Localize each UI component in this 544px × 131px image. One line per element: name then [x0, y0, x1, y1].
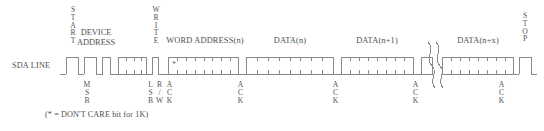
waveform-pre-break-block — [421, 57, 432, 74]
waveform-word-address-ticks-bottom — [177, 70, 230, 74]
label-device-address-line2: ADDRESS — [65, 38, 127, 48]
label-stop: STOP — [520, 12, 530, 43]
label-write: WRITE — [151, 6, 161, 45]
label-data-n-plus-1: DATA(n+1) — [340, 37, 414, 45]
waveform-data-nx-ticks-top — [451, 57, 505, 61]
label-data-n-plus-x: DATA(n+x) — [441, 37, 515, 45]
waveform-device-address-ticks-top — [126, 57, 141, 61]
dont-care-marker: * — [172, 61, 176, 69]
waveform-device-address-bits — [84, 57, 118, 74]
sda-line-label: SDA LINE — [12, 62, 50, 70]
label-msb: MSB — [82, 81, 92, 104]
label-ack-0: ACK — [165, 81, 174, 104]
label-device-address-line1: DEVICE — [65, 28, 127, 38]
waveform-stop-pulse — [519, 57, 537, 74]
waveform-device-address-ticks-bottom — [126, 70, 141, 74]
waveform-data-n-ticks-bottom — [257, 70, 322, 74]
waveform-word-address-ticks-top — [177, 57, 230, 61]
waveform-word-address-block — [168, 57, 238, 74]
waveform-data-n1-ticks-bottom — [350, 70, 404, 74]
timing-diagram-figure: SDA LINE START DEVICE ADDRESS WRITE WORD… — [0, 0, 544, 131]
label-data-n: DATA(n) — [253, 37, 327, 45]
label-lsb: LSB — [146, 81, 155, 104]
label-read-write: R/W — [155, 81, 164, 104]
waveform-data-n1-ticks-top — [350, 57, 404, 61]
waveform-data-n-ticks-top — [257, 57, 322, 61]
label-ack-3: ACK — [411, 81, 420, 104]
waveform-rw-bit — [146, 57, 162, 74]
waveform-break-squiggle-left — [428, 42, 435, 88]
waveform-data-nx-ticks-bottom — [451, 70, 505, 74]
label-ack-2: ACK — [331, 81, 340, 104]
waveform-start-pulse — [66, 57, 84, 74]
label-device-address: DEVICE ADDRESS — [65, 28, 127, 47]
label-ack-1: ACK — [236, 81, 245, 104]
label-word-address: WORD ADDRESS(n) — [166, 37, 244, 45]
footnote: (* = DON'T CARE bit for 1K) — [45, 111, 148, 119]
label-ack-4: ACK — [497, 81, 506, 104]
waveform-device-address-block — [118, 57, 146, 74]
